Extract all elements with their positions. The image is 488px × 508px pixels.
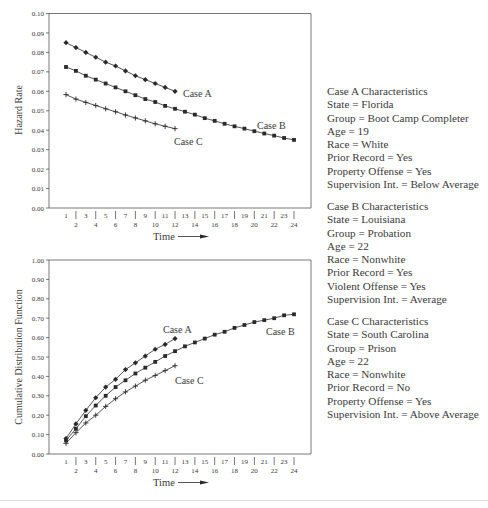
x-tick-label: 18	[231, 467, 239, 475]
x-tick-label: 10	[152, 221, 160, 229]
square-marker	[223, 122, 227, 126]
square-marker	[94, 404, 98, 408]
x-tick-label: 7	[124, 212, 128, 220]
x-tick-label: 3	[84, 458, 88, 466]
diamond-marker	[123, 68, 128, 73]
diamond-marker	[63, 40, 68, 45]
x-tick-label: 16	[211, 467, 219, 475]
series-label: Case B	[257, 120, 286, 131]
x-tick-label: 22	[271, 221, 279, 229]
plus-marker	[163, 368, 168, 373]
case-c-title: Case C Characteristics	[327, 315, 479, 328]
x-axis-label: Time	[153, 477, 175, 488]
divider	[0, 500, 488, 501]
x-tick-label: 9	[144, 458, 148, 466]
case-c-line: Prior Record = No	[327, 381, 479, 394]
plus-marker	[143, 378, 148, 383]
square-marker	[252, 129, 256, 133]
square-marker	[153, 100, 157, 104]
y-tick-label: 0.70	[32, 315, 45, 323]
plus-marker	[153, 121, 158, 126]
cdf-chart: 0.000.100.200.300.400.500.600.700.800.90…	[13, 257, 311, 488]
series-case-c	[63, 92, 177, 131]
case-a-line: Race = White	[327, 138, 479, 151]
y-axis-label: Hazard Rate	[13, 85, 24, 135]
square-marker	[272, 316, 276, 320]
x-tick-label: 8	[134, 467, 138, 475]
case-a-line: Age = 19	[327, 125, 479, 138]
square-marker	[193, 341, 197, 345]
x-tick-label: 13	[181, 458, 189, 466]
diamond-marker	[83, 50, 88, 55]
series-label: Case B	[266, 326, 295, 337]
square-marker	[84, 414, 88, 418]
case-c-line: Group = Prison	[327, 342, 479, 355]
case-b-line: Age = 22	[327, 240, 447, 253]
square-marker	[223, 330, 227, 334]
x-tick-label: 12	[172, 467, 180, 475]
diamond-marker	[153, 81, 158, 86]
square-marker	[153, 360, 157, 364]
x-tick-label: 12	[172, 221, 180, 229]
x-tick-label: 3	[84, 212, 88, 220]
diamond-marker	[73, 45, 78, 50]
y-axis-label: Cumulative Distribution Function	[13, 289, 24, 425]
plus-marker	[83, 100, 88, 105]
square-marker	[74, 69, 78, 73]
plus-marker	[73, 96, 78, 101]
square-marker	[203, 337, 207, 341]
y-tick-label: 0.08	[32, 49, 45, 57]
square-marker	[282, 136, 286, 140]
square-marker	[143, 97, 147, 101]
case-b-line: State = Louisiana	[327, 213, 447, 226]
case-a-line: Supervision Int. = Below Average	[327, 178, 479, 191]
square-marker	[233, 124, 237, 128]
case-c-line: Age = 22	[327, 355, 479, 368]
x-tick-label: 6	[114, 467, 118, 475]
case-c-line: Race = Nonwhite	[327, 368, 479, 381]
x-tick-label: 1	[64, 458, 68, 466]
diamond-marker	[133, 73, 138, 78]
x-tick-label: 20	[251, 221, 259, 229]
plus-marker	[133, 384, 138, 389]
plot-frame	[49, 14, 311, 209]
case-c-line: Supervision Int. = Above Average	[327, 408, 479, 421]
plus-marker	[133, 115, 138, 120]
diamond-marker	[143, 77, 148, 82]
x-tick-label: 15	[201, 458, 209, 466]
square-marker	[94, 78, 98, 82]
plus-marker	[172, 126, 177, 131]
plus-marker	[172, 363, 177, 368]
y-tick-label: 0.90	[32, 276, 45, 284]
x-tick-label: 17	[221, 212, 229, 220]
diamond-marker	[163, 342, 168, 347]
x-tick-label: 18	[231, 221, 239, 229]
case-a-line: Property Offense = Yes	[327, 165, 479, 178]
x-tick-label: 10	[152, 467, 160, 475]
x-tick-label: 4	[94, 221, 98, 229]
plus-marker	[123, 112, 128, 117]
case-a-title: Case A Characteristics	[327, 85, 479, 98]
square-marker	[163, 104, 167, 108]
plus-marker	[93, 103, 98, 108]
square-marker	[213, 119, 217, 123]
case-b-line: Supervision Int. = Average	[327, 293, 447, 306]
arrow-head-icon	[200, 481, 209, 485]
x-tick-label: 19	[241, 212, 249, 220]
series-case-a	[63, 40, 177, 94]
y-tick-label: 0.20	[32, 412, 45, 420]
x-tick-label: 20	[251, 467, 259, 475]
case-a-characteristics: Case A Characteristics State = Florida G…	[327, 85, 479, 191]
diamond-marker	[172, 336, 177, 341]
y-tick-label: 0.80	[32, 295, 45, 303]
case-c-line: State = South Carolina	[327, 328, 479, 341]
x-tick-label: 24	[291, 221, 299, 229]
square-marker	[272, 134, 276, 138]
y-tick-label: 0.50	[32, 354, 45, 362]
y-tick-label: 0.10	[32, 10, 45, 18]
square-marker	[183, 110, 187, 114]
x-axis-label: Time	[153, 231, 175, 242]
x-tick-label: 15	[201, 212, 209, 220]
y-tick-label: 0.09	[32, 30, 45, 38]
square-marker	[84, 74, 88, 78]
